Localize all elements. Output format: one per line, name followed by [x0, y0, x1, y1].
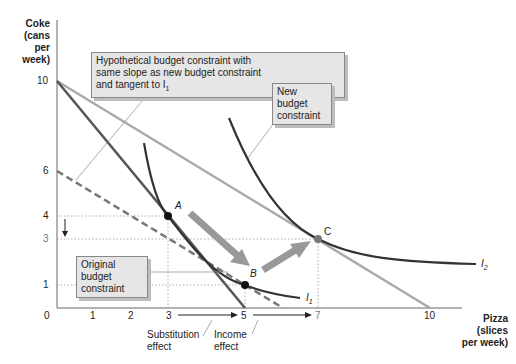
x-axis-title: Pizza(slicesper week): [452, 313, 508, 349]
x-tick-2: 2: [128, 310, 134, 321]
x-tick-3: 3: [166, 310, 172, 321]
point-c: [314, 235, 322, 243]
indifference-curve-i2: [229, 118, 476, 264]
point-b: [241, 281, 249, 289]
income-arrow: [263, 241, 311, 270]
y-tick-6: 6: [43, 165, 49, 176]
indifference-curve-i1: [144, 143, 300, 298]
i2-label: I2: [481, 258, 488, 274]
y-axis-title: Coke(cansperweek): [14, 18, 50, 66]
point-c-label: C: [324, 226, 331, 238]
y-tick-10: 10: [37, 75, 48, 86]
x-tick-7: 7: [315, 310, 321, 321]
income-effect-label: Incomeeffect: [214, 329, 247, 353]
y-tick-1: 1: [43, 279, 49, 290]
x-tick-1: 1: [90, 310, 96, 321]
new-budget-callout: New budgetconstraint: [272, 83, 332, 125]
substitution-effect-label: Substitutioneffect: [147, 329, 199, 353]
point-a-label: A: [175, 200, 182, 212]
x-tick-0: 0: [44, 310, 50, 321]
y-tick-3: 3: [43, 233, 49, 244]
point-a: [164, 212, 172, 220]
x-tick-5: 5: [241, 310, 247, 321]
x-tick-10: 10: [424, 310, 435, 321]
point-b-label: B: [250, 268, 257, 280]
y-tick-4: 4: [43, 210, 49, 221]
original-budget-callout: Original budgetconstraint: [76, 256, 148, 298]
i1-label: I1: [306, 292, 313, 308]
